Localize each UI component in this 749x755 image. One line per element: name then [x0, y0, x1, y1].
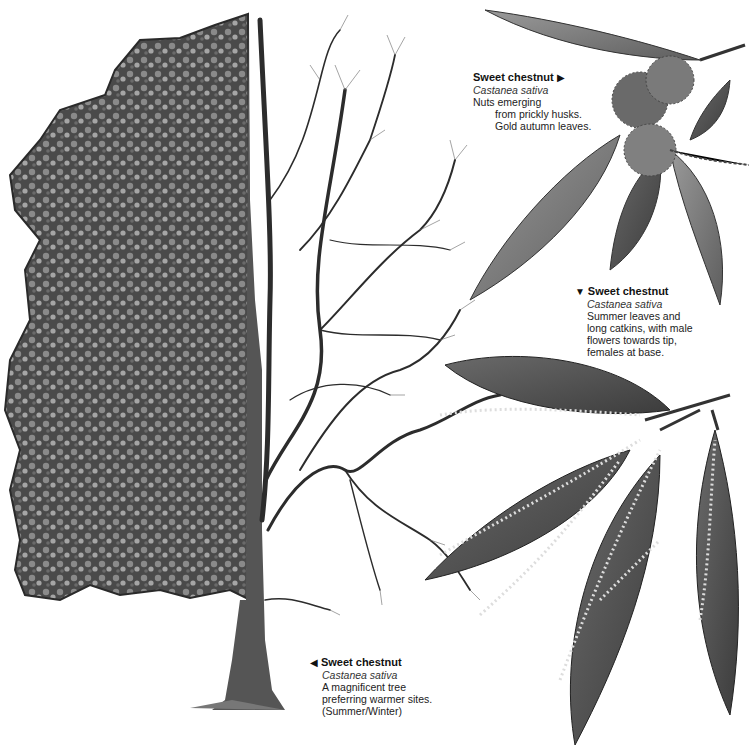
- caption-nuts: Sweet chestnut ▶ Castanea sativa Nuts em…: [473, 71, 591, 132]
- caption-title: Sweet chestnut: [321, 656, 402, 668]
- caption-latin: Castanea sativa: [322, 669, 432, 681]
- caption-line: preferring warmer sites.: [322, 693, 432, 705]
- caption-latin: Castanea sativa: [587, 298, 693, 310]
- autumn-leaves-and-husks: [470, 10, 749, 305]
- caption-line: females at base.: [587, 346, 693, 358]
- caption-line: Nuts emerging: [473, 96, 591, 108]
- caption-line: Gold autumn leaves.: [473, 120, 591, 132]
- caption-title: Sweet chestnut: [588, 285, 669, 297]
- left-pointer-icon: ◀: [310, 657, 318, 668]
- caption-line: A magnificent tree: [322, 681, 432, 693]
- caption-title: Sweet chestnut: [473, 71, 554, 83]
- caption-line: from prickly husks.: [473, 108, 591, 120]
- right-pointer-icon: ▶: [557, 72, 565, 83]
- caption-line: long catkins, with male: [587, 322, 693, 334]
- illustration: [0, 0, 749, 755]
- caption-line: Summer leaves and: [587, 310, 693, 322]
- caption-catkins: ▼ Sweet chestnut Castanea sativa Summer …: [575, 285, 693, 358]
- caption-line: flowers towards tip,: [587, 334, 693, 346]
- winter-branches: [260, 20, 500, 610]
- down-pointer-icon: ▼: [575, 286, 585, 297]
- caption-tree: ◀ Sweet chestnut Castanea sativa A magni…: [310, 656, 432, 717]
- summer-foliage: [5, 14, 250, 600]
- caption-line: (Summer/Winter): [322, 705, 432, 717]
- caption-latin: Castanea sativa: [473, 84, 591, 96]
- summer-leaves-and-catkins: [425, 356, 738, 745]
